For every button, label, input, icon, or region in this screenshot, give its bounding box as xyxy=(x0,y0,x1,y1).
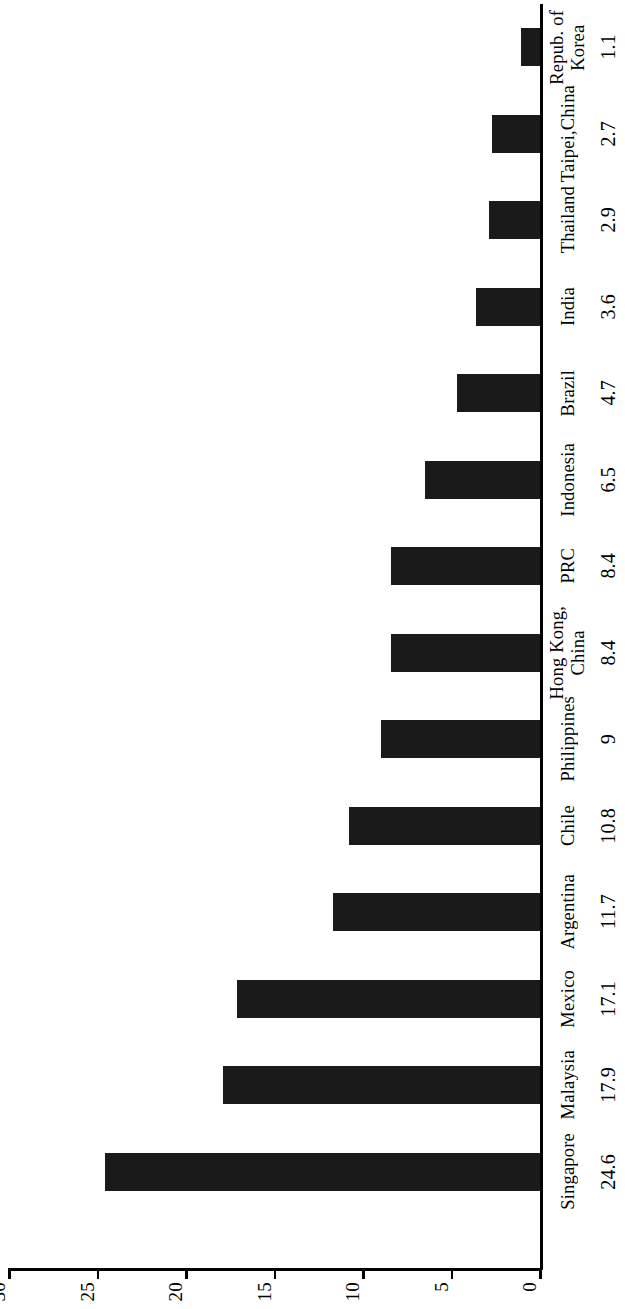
category-label-group: Mexico17.1 xyxy=(543,956,625,1042)
category-label-group: Hong Kong,China8.4 xyxy=(543,610,625,696)
bar xyxy=(105,1153,540,1191)
category-label-group: India3.6 xyxy=(543,264,625,350)
axis-tick-label: 10 xyxy=(343,1282,383,1301)
category-name-line: PRC xyxy=(558,548,578,584)
data-value-label-text: 11.7 xyxy=(597,894,619,929)
data-value-label: 2.9 xyxy=(591,177,625,263)
category-name-line: Mexico xyxy=(558,970,578,1028)
bar xyxy=(223,1066,540,1104)
axis-tick xyxy=(8,1268,11,1279)
data-value-label-text: 8.4 xyxy=(597,640,619,666)
data-value-label: 24.6 xyxy=(591,1129,625,1215)
bar xyxy=(349,807,540,845)
axis-tick xyxy=(539,1268,542,1279)
data-value-label: 4.7 xyxy=(591,350,625,436)
bar xyxy=(457,374,540,412)
category-name-text: Chile xyxy=(558,805,579,846)
axis-tick-label-text: 0 xyxy=(520,1282,540,1292)
category-name-line: Brazil xyxy=(558,370,578,416)
data-value-label: 11.7 xyxy=(591,869,625,955)
category-name: Brazil xyxy=(545,350,591,436)
axis-tick xyxy=(185,1268,188,1279)
category-name-text: Brazil xyxy=(558,370,579,416)
category-name-text: Repub. ofKorea xyxy=(547,10,589,85)
category-name: India xyxy=(545,264,591,350)
data-value-label-text: 2.7 xyxy=(597,121,619,147)
category-name-line: Chile xyxy=(558,805,578,846)
category-label-group: Philippines9 xyxy=(543,696,625,782)
bar xyxy=(489,201,540,239)
category-name-line: Philippines xyxy=(558,696,578,781)
axis-tick xyxy=(274,1268,277,1279)
category-name: Indonesia xyxy=(545,437,591,523)
category-name-text: Mexico xyxy=(558,970,579,1028)
data-value-label: 8.4 xyxy=(591,523,625,609)
data-value-label: 3.6 xyxy=(591,264,625,350)
data-value-label: 8.4 xyxy=(591,610,625,696)
data-value-label-text: 10.8 xyxy=(597,808,619,844)
data-value-label-text: 2.9 xyxy=(597,207,619,233)
category-name-text: Taipei,China xyxy=(558,85,579,182)
data-value-label: 10.8 xyxy=(591,783,625,869)
category-name-line: China xyxy=(568,606,589,699)
category-name-line: Argentina xyxy=(558,874,578,949)
axis-tick-label: 20 xyxy=(166,1282,206,1301)
axis-tick xyxy=(362,1268,365,1279)
data-value-label-text: 4.7 xyxy=(597,380,619,406)
category-name-text: PRC xyxy=(558,548,579,584)
data-value-label: 17.1 xyxy=(591,956,625,1042)
category-name: Hong Kong,China xyxy=(545,610,591,696)
data-value-label-text: 6.5 xyxy=(597,467,619,493)
data-value-label: 6.5 xyxy=(591,437,625,523)
axis-tick-label-text: 30 xyxy=(0,1282,9,1301)
bar xyxy=(425,461,540,499)
data-value-label-text: 17.1 xyxy=(597,981,619,1017)
bar xyxy=(391,547,540,585)
category-name-line: Repub. of xyxy=(547,10,567,85)
category-label-group: Repub. ofKorea1.1 xyxy=(543,4,625,90)
category-name: Mexico xyxy=(545,956,591,1042)
data-value-label-text: 8.4 xyxy=(597,553,619,579)
axis-tick-label: 0 xyxy=(520,1282,560,1292)
axis-tick-label-text: 10 xyxy=(343,1282,363,1301)
axis-tick-label: 25 xyxy=(78,1282,118,1301)
category-name: Philippines xyxy=(545,696,591,782)
category-name: PRC xyxy=(545,523,591,609)
category-name-text: Argentina xyxy=(558,874,579,949)
category-name-text: Singapore xyxy=(558,1133,579,1210)
category-name: Thailand xyxy=(545,177,591,263)
category-label-group: Singapore24.6 xyxy=(543,1129,625,1215)
category-name-line: Taipei,China xyxy=(558,85,578,182)
data-value-label: 9 xyxy=(591,696,625,782)
category-label-group: Argentina11.7 xyxy=(543,869,625,955)
category-label-group: Taipei,China2.7 xyxy=(543,91,625,177)
category-name-line: Thailand xyxy=(558,186,578,253)
bar xyxy=(237,980,540,1018)
axis-tick-label: 5 xyxy=(432,1282,472,1292)
bar-chart-figure: 302520151050 Singapore24.6Malaysia17.9Me… xyxy=(0,0,625,1309)
category-name: Chile xyxy=(545,783,591,869)
category-name-line: Singapore xyxy=(558,1133,578,1210)
category-name: Malaysia xyxy=(545,1042,591,1128)
category-name-text: India xyxy=(558,287,579,326)
axis-tick-label-text: 20 xyxy=(166,1282,186,1301)
axis-tick-label: 30 xyxy=(0,1282,29,1301)
category-label-group: Indonesia6.5 xyxy=(543,437,625,523)
bar xyxy=(391,634,540,672)
category-name: Argentina xyxy=(545,869,591,955)
category-name-text: Thailand xyxy=(558,186,579,253)
category-label-group: Brazil4.7 xyxy=(543,350,625,436)
axis-tick-label-text: 5 xyxy=(432,1282,452,1292)
category-name-line: Hong Kong, xyxy=(547,606,567,699)
category-label-group: Chile10.8 xyxy=(543,783,625,869)
data-value-label-text: 24.6 xyxy=(597,1154,619,1190)
category-name: Repub. ofKorea xyxy=(545,4,591,90)
data-value-label: 1.1 xyxy=(591,4,625,90)
axis-tick xyxy=(97,1268,100,1279)
axis-tick-label-text: 25 xyxy=(78,1282,98,1301)
category-name-text: Hong Kong,China xyxy=(547,606,589,699)
category-label-group: Malaysia17.9 xyxy=(543,1042,625,1128)
data-value-label-text: 9 xyxy=(597,734,619,744)
category-name-text: Indonesia xyxy=(558,443,579,517)
category-name-line: Malaysia xyxy=(558,1050,578,1119)
